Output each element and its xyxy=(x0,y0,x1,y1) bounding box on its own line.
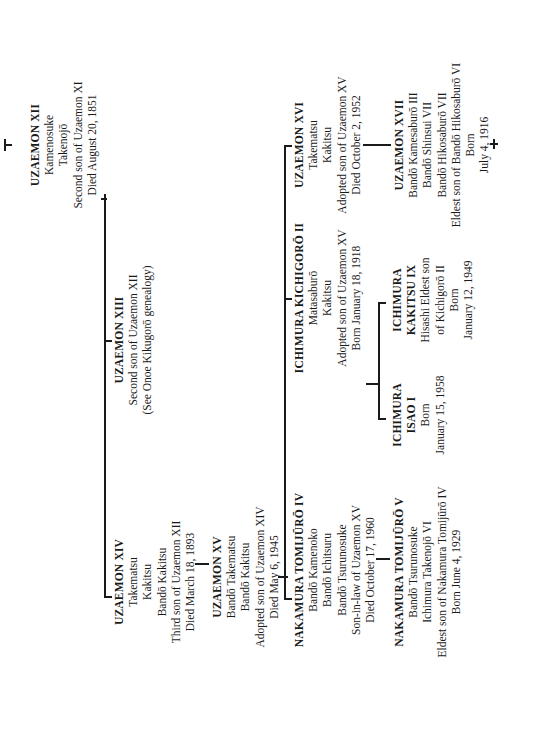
person-detail: Bandō Kakitsu xyxy=(155,507,169,657)
person-detail: Born xyxy=(447,245,461,355)
person-uzaemon-xv: UZAEMON XV Bandō Takematsu Bandō Kakitsu… xyxy=(210,497,281,657)
person-detail: Takenojō xyxy=(56,65,70,225)
person-detail: Died May 6, 1945 xyxy=(267,497,281,657)
connector-line xyxy=(284,298,292,300)
connector-line xyxy=(378,302,380,420)
person-name: UZAEMON XVII xyxy=(392,55,406,235)
person-detail: July 4, 1916 xyxy=(477,55,491,235)
person-detail: Adopted son of Uzaemon XV xyxy=(335,65,349,225)
person-name-2: KAKITSU IX xyxy=(404,245,418,355)
person-detail: Bandō Tsurunosuke xyxy=(335,475,349,665)
person-name: NAKAMURA TOMIJŪRŌ IV xyxy=(292,475,306,665)
person-name: ICHIMURA KICHIGORŌ II xyxy=(292,203,306,393)
person-detail: Adopted son of Uzaemon XV xyxy=(335,203,349,393)
person-detail: Takematsu xyxy=(306,65,320,225)
person-name: UZAEMON XV xyxy=(210,497,224,657)
person-detail: January 12, 1949 xyxy=(461,245,475,355)
connector-line xyxy=(376,558,390,560)
person-detail: Bandō Tsurunosuke xyxy=(406,467,420,677)
person-detail: Takematsu xyxy=(126,507,140,657)
person-name: UZAEMON XIV xyxy=(112,507,126,657)
person-detail: Died October 2, 1952 xyxy=(349,65,363,225)
person-name: UZAEMON XVI xyxy=(292,65,306,225)
person-detail: Eldest son of Bandō Hikosaburō VI xyxy=(449,55,463,235)
person-name: UZAEMON XII xyxy=(28,65,42,225)
person-kakitsu-ix: ICHIMURA KAKITSU IX Hisashi Eldest son o… xyxy=(390,245,475,355)
person-isao-i: ICHIMURA ISAO I Born January 15, 1958 xyxy=(390,365,447,465)
person-detail: Son-in-law of Uzaemon XV xyxy=(349,475,363,665)
person-detail: Kakitsu xyxy=(140,507,154,657)
person-detail: (See Onoe Kikugorō genealogy) xyxy=(140,250,154,430)
person-name: ICHIMURA xyxy=(390,245,404,355)
connector-line xyxy=(4,144,12,146)
person-detail: Second son of Uzaemon XII xyxy=(126,250,140,430)
person-name: ICHIMURA xyxy=(390,365,404,465)
person-detail: Born xyxy=(463,55,477,235)
person-detail: Died March 18, 1893 xyxy=(183,507,197,657)
connector-line xyxy=(104,596,112,598)
person-detail: Born xyxy=(418,365,432,465)
connector-line xyxy=(104,198,106,598)
connector-line xyxy=(378,302,386,304)
person-name: UZAEMON XIII xyxy=(112,250,126,430)
person-uzaemon-xii: UZAEMON XII Kamenosuke Takenojō Second s… xyxy=(28,65,99,225)
person-name: NAKAMURA TOMIJŪRŌ V xyxy=(392,467,406,677)
person-kichigoro-ii: ICHIMURA KICHIGORŌ II Matasaburō Kakitsu… xyxy=(292,203,363,393)
connector-line xyxy=(284,145,292,147)
connector-line xyxy=(363,144,391,146)
person-detail: Bandō Kamesaburō III xyxy=(406,55,420,235)
person-detail: Matasaburō xyxy=(306,203,320,393)
person-detail: Bandō Kamenoko xyxy=(306,475,320,665)
person-detail: Hisashi Eldest son xyxy=(418,245,432,355)
person-detail: Born January 18, 1918 xyxy=(349,203,363,393)
connector-line xyxy=(104,340,112,342)
person-uzaemon-xvi: UZAEMON XVI Takematsu Kakitsu Adopted so… xyxy=(292,65,363,225)
person-detail: Bandō Shinsui VII xyxy=(420,55,434,235)
connector-line xyxy=(284,598,292,600)
person-detail: Bandō Hikosaburō VII xyxy=(435,55,449,235)
person-detail: Bandō Takematsu xyxy=(224,497,238,657)
person-tomijuro-iv: NAKAMURA TOMIJŪRŌ IV Bandō Kamenoko Band… xyxy=(292,475,377,665)
person-uzaemon-xiii: UZAEMON XIII Second son of Uzaemon XII (… xyxy=(112,250,155,430)
person-detail: January 15, 1958 xyxy=(433,365,447,465)
person-name-2: ISAO I xyxy=(404,365,418,465)
person-detail: Bandō Ichitsuru xyxy=(320,475,334,665)
person-tomijuro-v: NAKAMURA TOMIJŪRŌ V Bandō Tsurunosuke Ic… xyxy=(392,467,463,677)
person-detail: Third son of Uzaemon XII xyxy=(169,507,183,657)
person-detail: Kakitsu xyxy=(320,65,334,225)
person-detail: Kakitsu xyxy=(320,203,334,393)
genealogy-chart: UZAEMON XII Kamenosuke Takenojō Second s… xyxy=(0,0,544,745)
connector-line xyxy=(378,418,386,420)
person-detail: of Kichigorō II xyxy=(433,245,447,355)
person-detail: Died August 20, 1851 xyxy=(85,65,99,225)
person-detail: Born June 4, 1929 xyxy=(449,467,463,677)
person-detail: Ichimura Takenojō VI xyxy=(420,467,434,677)
person-uzaemon-xiv: UZAEMON XIV Takematsu Kakitsu Bandō Kaki… xyxy=(112,507,197,657)
person-detail: Kamenosuke xyxy=(42,65,56,225)
connector-line xyxy=(284,145,286,600)
person-detail: Bandō Kakitsu xyxy=(238,497,252,657)
person-detail: Second son of Uzaemon XI xyxy=(71,65,85,225)
person-uzaemon-xvii: UZAEMON XVII Bandō Kamesaburō III Bandō … xyxy=(392,55,491,235)
person-detail: Eldest son of Nakamura Tomijūrō IV xyxy=(435,467,449,677)
person-detail: Died October 17, 1960 xyxy=(363,475,377,665)
person-detail: Adopted son of Uzaemon XIV xyxy=(253,497,267,657)
